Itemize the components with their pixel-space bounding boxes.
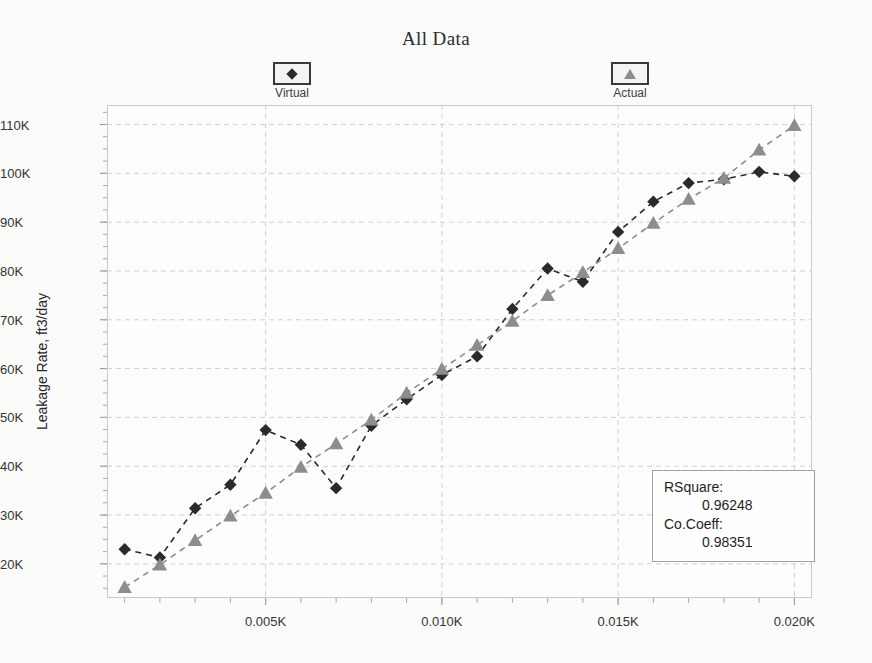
data-point-virtual <box>118 543 130 555</box>
data-point-actual <box>505 314 519 327</box>
data-point-actual <box>681 192 695 205</box>
y-tick-label: 30K <box>0 508 94 523</box>
data-point-virtual <box>788 170 800 182</box>
data-point-actual <box>470 338 484 351</box>
y-tick-label: 70K <box>0 312 94 327</box>
data-point-actual <box>752 143 766 156</box>
data-point-virtual <box>682 177 694 189</box>
y-tick-label: 50K <box>0 410 94 425</box>
x-tick-label: 0.020K <box>774 614 815 629</box>
legend-label-virtual: Virtual <box>260 86 324 100</box>
y-tick-label: 60K <box>0 361 94 376</box>
chart-canvas: All Data Virtual Actual Leakage Rate, ft… <box>0 0 872 663</box>
x-tick-label: 0.010K <box>421 614 462 629</box>
legend-item-virtual[interactable]: Virtual <box>260 62 324 100</box>
diamond-marker-icon <box>286 68 297 79</box>
legend-swatch-actual <box>611 62 649 85</box>
y-tick-label: 90K <box>0 215 94 230</box>
data-point-actual <box>188 533 202 546</box>
data-point-actual <box>787 118 801 131</box>
y-tick-label: 100K <box>0 166 94 181</box>
data-point-actual <box>576 265 590 278</box>
data-point-virtual <box>295 439 307 451</box>
chart-title: All Data <box>0 28 872 50</box>
x-tick-label: 0.005K <box>245 614 286 629</box>
rsquare-label: RSquare: <box>664 478 804 496</box>
legend-item-actual[interactable]: Actual <box>598 62 662 100</box>
y-tick-label: 110K <box>0 117 94 132</box>
data-point-actual <box>329 437 343 450</box>
x-tick-label: 0.015K <box>598 614 639 629</box>
cocoeff-label: Co.Coeff: <box>664 515 804 533</box>
triangle-marker-icon <box>624 69 636 79</box>
data-point-actual <box>611 241 625 254</box>
statistics-box: RSquare: 0.96248 Co.Coeff: 0.98351 <box>652 470 815 562</box>
legend-label-actual: Actual <box>598 86 662 100</box>
y-tick-label: 20K <box>0 556 94 571</box>
data-point-virtual <box>612 226 624 238</box>
data-point-actual <box>117 580 131 593</box>
y-tick-label: 80K <box>0 263 94 278</box>
data-point-virtual <box>471 350 483 362</box>
y-tick-label: 40K <box>0 459 94 474</box>
data-point-actual <box>364 413 378 426</box>
data-point-virtual <box>224 479 236 491</box>
data-point-actual <box>399 386 413 399</box>
data-point-virtual <box>330 482 342 494</box>
data-point-virtual <box>189 502 201 514</box>
legend-swatch-virtual <box>273 62 311 85</box>
data-point-virtual <box>259 424 271 436</box>
rsquare-value: 0.96248 <box>664 496 804 514</box>
data-point-actual <box>258 486 272 499</box>
data-point-actual <box>540 288 554 301</box>
data-point-virtual <box>541 262 553 274</box>
data-point-actual <box>435 362 449 375</box>
data-point-virtual <box>753 166 765 178</box>
cocoeff-value: 0.98351 <box>664 533 804 551</box>
